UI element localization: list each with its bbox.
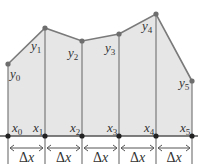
axis-point <box>5 133 10 138</box>
delta-x-label: Δx <box>56 150 72 165</box>
delta-x-label: Δx <box>19 150 35 165</box>
curve-point <box>42 25 47 30</box>
curve-point <box>116 31 121 36</box>
area-under-curve <box>8 14 192 136</box>
delta-x-label: Δx <box>93 150 109 165</box>
interval-arrows: ΔxΔxΔxΔxΔx <box>10 145 190 165</box>
curve-point <box>79 38 84 43</box>
trapezoid-diagram: y0y1y2y3y4y5x0x1x2x3x4x5 ΔxΔxΔxΔxΔx <box>0 0 198 167</box>
curve-point <box>189 78 194 83</box>
delta-x-label: Δx <box>130 150 146 165</box>
curve-point <box>153 11 158 16</box>
delta-x-label: Δx <box>166 150 182 165</box>
